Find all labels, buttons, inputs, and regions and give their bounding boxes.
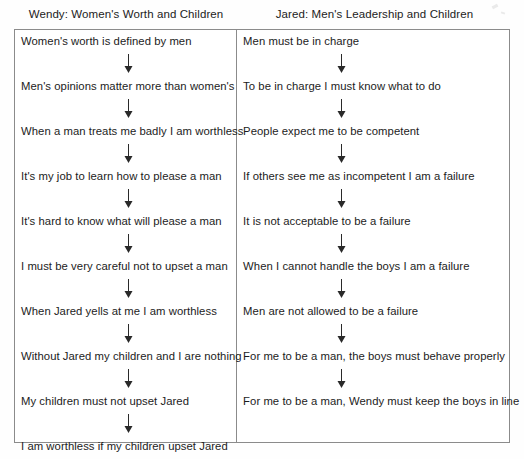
chain-node: It's hard to know what will please a man — [15, 210, 236, 232]
chain-node-label: My children must not upset Jared — [21, 394, 189, 408]
chain-node-label: It is not acceptable to be a failure — [243, 214, 411, 228]
chain-node: I must be very careful not to upset a ma… — [15, 255, 236, 277]
down-arrow-icon — [237, 277, 509, 300]
chain-node-label: It's my job to learn how to please a man — [21, 169, 222, 183]
chain-node: When Jared yells at me I am worthless — [15, 300, 236, 322]
arrow-head — [338, 291, 346, 298]
diagram-frame: Women's worth is defined by menMen's opi… — [14, 29, 510, 443]
chain-node: Men's opinions matter more than women's — [15, 75, 236, 97]
chain-node-label: Men's opinions matter more than women's — [21, 79, 234, 93]
down-arrow-icon — [15, 277, 236, 300]
column-header-wendy: Wendy: Women's Worth and Children — [14, 7, 238, 27]
chain-node-label: Without Jared my children and I are noth… — [21, 349, 242, 363]
arrow-head — [125, 201, 133, 208]
column-jared: Men must be in chargeTo be in charge I m… — [237, 30, 509, 442]
arrow-head — [338, 201, 346, 208]
down-arrow-icon — [237, 187, 509, 210]
down-arrow-icon — [237, 367, 509, 390]
chain-node-label: For me to be a man, the boys must behave… — [243, 349, 505, 363]
diagram-page: Wendy: Women's Worth and Children Jared:… — [0, 0, 524, 459]
chain-node: If others see me as incompetent I am a f… — [237, 165, 509, 187]
arrow-head — [125, 111, 133, 118]
chain-node-label: To be in charge I must know what to do — [243, 79, 441, 93]
arrow-head — [338, 246, 346, 253]
chain-node: People expect me to be competent — [237, 120, 509, 142]
chain-node: It is not acceptable to be a failure — [237, 210, 509, 232]
column-wendy: Women's worth is defined by menMen's opi… — [15, 30, 237, 442]
down-arrow-icon — [15, 142, 236, 165]
chain-node: For me to be a man, the boys must behave… — [237, 345, 509, 367]
arrow-head — [125, 336, 133, 343]
arrow-head — [338, 111, 346, 118]
arrow-head — [338, 336, 346, 343]
chain-node: Men must be in charge — [237, 30, 509, 52]
chain-node: Men are not allowed to be a failure — [237, 300, 509, 322]
down-arrow-icon — [15, 187, 236, 210]
chain-node: When I cannot handle the boys I am a fai… — [237, 255, 509, 277]
chain-jared: Men must be in chargeTo be in charge I m… — [237, 30, 509, 412]
chain-node: It's my job to learn how to please a man — [15, 165, 236, 187]
chain-node: My children must not upset Jared — [15, 390, 236, 412]
column-headers: Wendy: Women's Worth and Children Jared:… — [14, 7, 511, 27]
chain-node-label: Men must be in charge — [243, 34, 359, 48]
down-arrow-icon — [237, 142, 509, 165]
arrow-head — [338, 381, 346, 388]
chain-node: To be in charge I must know what to do — [237, 75, 509, 97]
column-header-jared: Jared: Men's Leadership and Children — [238, 7, 511, 27]
down-arrow-icon — [15, 367, 236, 390]
chain-node-label: For me to be a man, Wendy must keep the … — [243, 394, 519, 408]
arrow-head — [125, 426, 133, 433]
arrow-head — [125, 156, 133, 163]
arrow-head — [125, 246, 133, 253]
down-arrow-icon — [15, 322, 236, 345]
chain-node-label: Women's worth is defined by men — [21, 34, 192, 48]
chain-node-label: People expect me to be competent — [243, 124, 419, 138]
chain-node-label: When Jared yells at me I am worthless — [21, 304, 217, 318]
chain-node: When a man treats me badly I am worthles… — [15, 120, 236, 142]
chain-node-label: It's hard to know what will please a man — [21, 214, 222, 228]
down-arrow-icon — [15, 232, 236, 255]
chain-node-label: I must be very careful not to upset a ma… — [21, 259, 228, 273]
chain-node: Women's worth is defined by men — [15, 30, 236, 52]
down-arrow-icon — [15, 52, 236, 75]
chain-node-label: I am worthless if my children upset Jare… — [21, 439, 228, 453]
down-arrow-icon — [15, 97, 236, 120]
arrow-head — [125, 291, 133, 298]
down-arrow-icon — [15, 412, 236, 435]
chain-node: I am worthless if my children upset Jare… — [15, 435, 236, 457]
chain-node: Without Jared my children and I are noth… — [15, 345, 236, 367]
chain-node: For me to be a man, Wendy must keep the … — [237, 390, 509, 412]
chain-node-label: When a man treats me badly I am worthles… — [21, 124, 243, 138]
arrow-head — [125, 381, 133, 388]
down-arrow-icon — [237, 52, 509, 75]
down-arrow-icon — [237, 322, 509, 345]
arrow-head — [125, 66, 133, 73]
down-arrow-icon — [237, 232, 509, 255]
chain-node-label: When I cannot handle the boys I am a fai… — [243, 259, 469, 273]
down-arrow-icon — [237, 97, 509, 120]
chain-node-label: If others see me as incompetent I am a f… — [243, 169, 475, 183]
arrow-head — [338, 66, 346, 73]
arrow-head — [338, 156, 346, 163]
chain-wendy: Women's worth is defined by menMen's opi… — [15, 30, 236, 457]
chain-node-label: Men are not allowed to be a failure — [243, 304, 418, 318]
